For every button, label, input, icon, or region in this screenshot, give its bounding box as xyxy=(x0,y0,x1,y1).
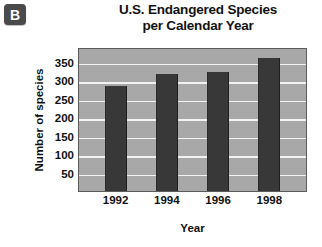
bar-1998 xyxy=(258,58,280,191)
bar-slot xyxy=(142,49,193,191)
y-axis-tick-label: 200 xyxy=(38,112,74,124)
plot-area xyxy=(78,48,307,192)
x-axis-ticks: 1992199419961998 xyxy=(78,194,307,210)
x-axis-label: Year xyxy=(78,222,307,234)
panel-badge: B xyxy=(4,4,26,25)
y-axis-tick-label: 50 xyxy=(38,168,74,180)
x-axis-tick-label: 1992 xyxy=(90,194,141,210)
bar-series xyxy=(79,49,306,191)
y-axis-tick-label: 350 xyxy=(38,57,74,69)
y-axis-tick-label: 150 xyxy=(38,131,74,143)
y-axis-tick-label: 300 xyxy=(38,75,74,87)
bar-slot xyxy=(193,49,244,191)
bar-slot xyxy=(91,49,142,191)
y-axis-tick-label: 100 xyxy=(38,149,74,161)
chart-title-line-1: U.S. Endangered Species xyxy=(119,2,277,17)
bar-1994 xyxy=(156,74,178,191)
chart-title-line-2: per Calendar Year xyxy=(78,18,318,34)
y-axis-tick-label: 250 xyxy=(38,94,74,106)
x-axis-tick-label: 1998 xyxy=(244,194,295,210)
figure-panel: B U.S. Endangered Species per Calendar Y… xyxy=(0,0,322,247)
x-axis-tick-label: 1994 xyxy=(141,194,192,210)
x-axis-tick-label: 1996 xyxy=(193,194,244,210)
bar-1996 xyxy=(207,72,229,191)
bar-1992 xyxy=(105,86,127,191)
bar-slot xyxy=(243,49,294,191)
chart-title: U.S. Endangered Species per Calendar Yea… xyxy=(78,2,318,34)
